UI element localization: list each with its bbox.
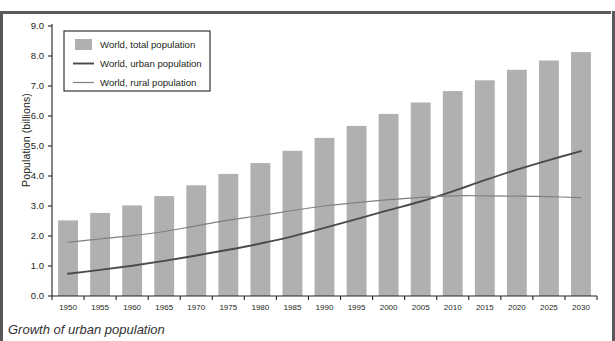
- y-tick-label: 9.0: [31, 20, 44, 31]
- x-tick-label: 2030: [572, 303, 590, 312]
- x-tick-label: 2000: [380, 303, 398, 312]
- bar-2020: [507, 70, 527, 296]
- x-tick-label: 1970: [187, 303, 205, 312]
- legend-label: World, urban population: [100, 58, 202, 69]
- figure-caption: Growth of urban population: [8, 322, 165, 337]
- bar-1980: [250, 163, 270, 296]
- y-tick-label: 6.0: [31, 110, 44, 121]
- legend-label: World, rural population: [100, 77, 196, 88]
- y-tick-label: 3.0: [31, 200, 44, 211]
- x-tick-label: 2020: [508, 303, 526, 312]
- bar-2000: [379, 114, 399, 296]
- x-tick-label: 1995: [348, 303, 366, 312]
- bar-1985: [283, 151, 303, 296]
- y-tick-label: 5.0: [31, 140, 44, 151]
- x-tick-label: 2010: [444, 303, 462, 312]
- chart-figure: Population (billions) 0.01.02.03.04.05.0…: [0, 14, 615, 341]
- x-tick-label: 1965: [155, 303, 173, 312]
- x-tick-label: 2015: [476, 303, 494, 312]
- bar-2015: [475, 80, 495, 296]
- y-tick-label: 2.0: [31, 230, 44, 241]
- chart-legend: World, total populationWorld, urban popu…: [64, 31, 210, 91]
- bar-2025: [539, 61, 559, 297]
- x-tick-label: 1960: [123, 303, 141, 312]
- y-tick-label: 0.0: [31, 290, 44, 301]
- legend-label: World, total population: [100, 39, 195, 50]
- bar-1965: [154, 196, 174, 296]
- bar-1990: [315, 138, 335, 296]
- y-tick-label: 1.0: [31, 260, 44, 271]
- bar-1995: [347, 126, 367, 296]
- x-tick-label: 2005: [412, 303, 430, 312]
- x-tick-label: 1975: [219, 303, 237, 312]
- bar-1970: [186, 185, 206, 296]
- x-tick-label: 1950: [59, 303, 77, 312]
- y-tick-label: 7.0: [31, 80, 44, 91]
- bar-1955: [90, 213, 110, 296]
- y-tick-label: 8.0: [31, 50, 44, 61]
- population-chart: 0.01.02.03.04.05.06.07.08.09.01950195519…: [0, 14, 615, 341]
- bar-1950: [58, 220, 78, 296]
- y-tick-label: 4.0: [31, 170, 44, 181]
- bar-1960: [122, 205, 142, 296]
- x-tick-label: 1985: [284, 303, 302, 312]
- x-tick-label: 1980: [251, 303, 269, 312]
- x-tick-label: 2025: [540, 303, 558, 312]
- bar-2030: [571, 52, 591, 296]
- bar-1975: [218, 174, 238, 296]
- x-tick-label: 1990: [316, 303, 334, 312]
- x-tick-label: 1955: [91, 303, 109, 312]
- legend-swatch-total: [75, 39, 92, 50]
